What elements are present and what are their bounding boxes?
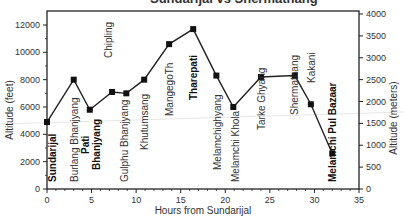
y2-tick-label: 3500 <box>366 31 386 41</box>
data-point-marker <box>87 107 93 113</box>
data-point-marker <box>308 101 314 107</box>
data-point-marker <box>230 104 236 110</box>
data-point-marker <box>213 73 219 79</box>
y-tick-label: 8000 <box>20 75 40 85</box>
data-point-marker <box>141 77 147 83</box>
point-label: Melamchi Khola <box>230 110 241 182</box>
y2-tick-label: 3000 <box>366 53 386 63</box>
y2-tick-label: 500 <box>366 162 381 172</box>
point-label: Tarke Ghyang <box>256 68 267 130</box>
point-label: Tharepati <box>188 55 199 100</box>
point-label: Sundarijal <box>47 133 58 182</box>
point-label: Melamchighyang <box>212 94 223 170</box>
scan-artifact-line <box>0 112 404 124</box>
point-label: Melamchi Pul Bazaar <box>327 82 338 182</box>
y2-tick-label: 2500 <box>366 75 386 85</box>
y2-axis-label: Altitude (meters) <box>388 81 399 154</box>
y2-tick-label: 4000 <box>366 9 386 19</box>
x-tick-label: 30 <box>309 195 319 205</box>
y2-tick-label: 1000 <box>366 140 386 150</box>
y-tick-label: 6000 <box>20 102 40 112</box>
altitude-chart: 0510152025303502000400060008000100001200… <box>0 0 404 222</box>
point-label: Bhanjyang <box>91 119 102 170</box>
data-point-marker <box>109 89 115 95</box>
x-tick-label: 20 <box>220 195 230 205</box>
point-label: Pati <box>80 135 91 154</box>
point-label: Gulphu Bhanjyang <box>119 100 130 182</box>
x-tick-label: 5 <box>89 195 94 205</box>
data-point-marker <box>190 26 196 32</box>
y2-tick-label: 1500 <box>366 118 386 128</box>
data-point-marker <box>44 119 50 125</box>
point-label: Shermathang <box>289 55 300 115</box>
data-point-marker <box>166 41 172 47</box>
point-label: Kakani <box>306 52 317 83</box>
point-label: Burlang Bhanjyang <box>69 97 80 182</box>
x-tick-label: 0 <box>44 195 49 205</box>
x-tick-label: 15 <box>176 195 186 205</box>
x-tick-label: 10 <box>131 195 141 205</box>
data-point-marker <box>71 77 77 83</box>
y-tick-label: 12000 <box>15 20 40 30</box>
x-tick-label: 25 <box>265 195 275 205</box>
y2-tick-label: 2000 <box>366 97 386 107</box>
y-axis-label: Altitude (feet) <box>4 80 15 139</box>
y-tick-label: 4000 <box>20 129 40 139</box>
x-tick-label: 35 <box>354 195 364 205</box>
point-label: Chipling <box>103 22 114 58</box>
data-point-marker <box>123 90 129 96</box>
y2-tick-label: 0 <box>366 184 371 194</box>
x-axis-label: Hours from Sundarijal <box>155 205 252 216</box>
point-label: MangegoTh <box>164 63 175 116</box>
y-tick-label: 2000 <box>20 157 40 167</box>
y-tick-label: 0 <box>35 184 40 194</box>
y-tick-label: 10000 <box>15 47 40 57</box>
point-label: Khutumsang <box>139 94 150 150</box>
